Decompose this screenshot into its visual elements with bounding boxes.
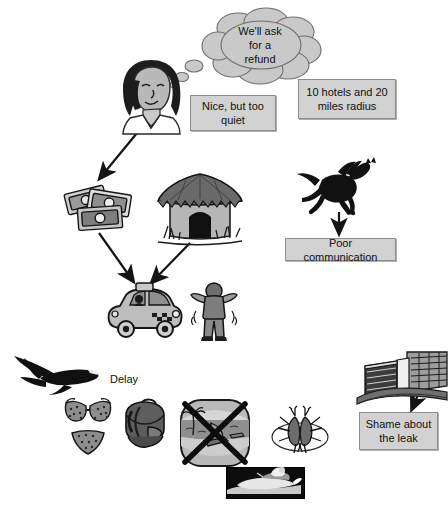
jet-ski-icon (227, 468, 302, 496)
thought-bubble-shape (196, 6, 324, 84)
banknotes-icon (62, 178, 140, 236)
taxi-car-icon (104, 283, 186, 339)
box-hotels-and-radius[interactable]: 10 hotels and 20 miles radius (298, 79, 396, 119)
backpack-icon (118, 399, 170, 449)
person-arms-up-icon (190, 281, 238, 343)
arrow-face-to-money (100, 133, 137, 178)
box-nice-but-too-quiet[interactable]: Nice, but too quiet (190, 95, 276, 131)
woman-face-icon (112, 56, 190, 134)
label-delay-text: Delay (110, 373, 138, 385)
mosquitoes-icon (268, 407, 332, 457)
beach-scene-crossed-icon (178, 397, 252, 469)
label-delay: Delay (110, 373, 138, 385)
rich-picture-diagram: We'll ask for a refund Nice, but too q (0, 0, 448, 509)
arrow-hut-to-car (152, 243, 190, 282)
thatched-hut-icon (152, 172, 248, 246)
box-shame-about-the-leak-label: Shame about the leak (365, 417, 432, 445)
jet-ski-photo (226, 467, 305, 499)
thought-bubble: We'll ask for a refund (196, 6, 324, 84)
box-poor-communication-label: Poor communication (291, 236, 390, 264)
airplane-icon (12, 352, 104, 396)
arrow-money-to-car (99, 233, 133, 281)
hotel-building-icon (357, 352, 447, 406)
bikini-icon (62, 397, 114, 455)
running-horse-icon (296, 160, 380, 218)
box-shame-about-the-leak[interactable]: Shame about the leak (359, 412, 438, 450)
box-hotels-and-radius-label: 10 hotels and 20 miles radius (304, 85, 390, 113)
box-poor-communication[interactable]: Poor communication (285, 238, 396, 261)
box-nice-but-too-quiet-label: Nice, but too quiet (196, 99, 270, 127)
